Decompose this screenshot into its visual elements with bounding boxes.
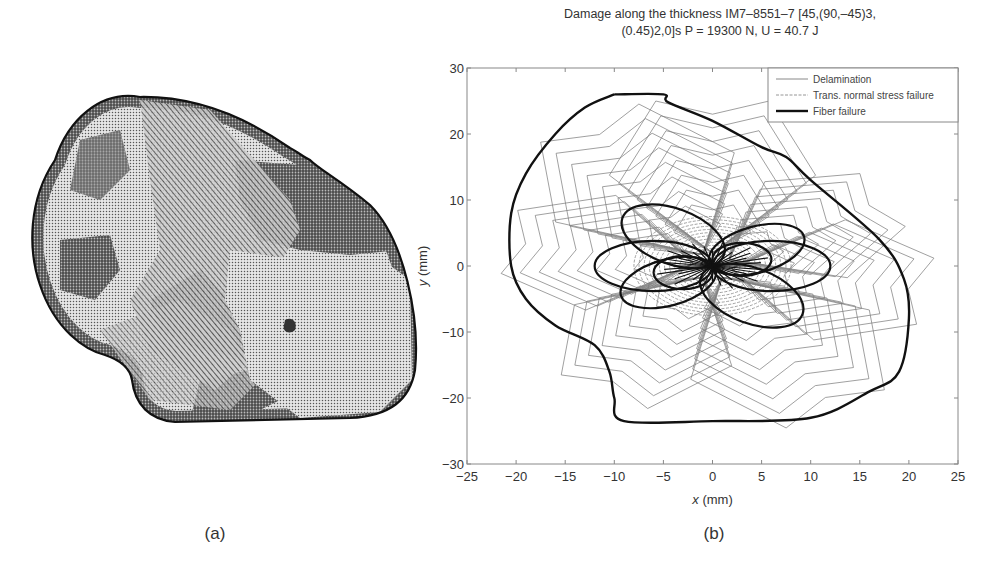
x-tick-label: 0	[709, 469, 716, 484]
delamination-contour	[587, 148, 728, 255]
x-tick-label: −20	[505, 469, 527, 484]
legend-item-label: Fiber failure	[813, 106, 866, 117]
x-axis-label: x (mm)	[691, 492, 732, 507]
x-tick-label: −10	[603, 469, 625, 484]
x-tick-label: −15	[554, 469, 576, 484]
plot-area	[501, 94, 934, 428]
x-tick-label: 10	[803, 469, 817, 484]
y-axis-label: y (mm)	[415, 246, 430, 287]
damage-plot: −25−20−15−10−50510152025−30−20−100102030…	[0, 0, 997, 571]
x-tick-label: 5	[758, 469, 765, 484]
y-tick-label: −20	[442, 391, 464, 406]
y-tick-label: 30	[450, 61, 464, 76]
x-tick-label: 25	[951, 469, 965, 484]
delamination-contour	[501, 195, 693, 310]
x-tick-label: 20	[902, 469, 916, 484]
delamination-contour	[637, 146, 788, 253]
panel-b-caption: (b)	[684, 524, 744, 544]
y-tick-label: 10	[450, 193, 464, 208]
delamination-contour	[697, 277, 838, 384]
legend-item-label: Trans. normal stress failure	[813, 90, 934, 101]
x-tick-label: −5	[656, 469, 671, 484]
legend-item-label: Delamination	[813, 74, 871, 85]
y-tick-label: −30	[442, 457, 464, 472]
y-tick-label: 20	[450, 127, 464, 142]
y-tick-label: 0	[457, 259, 464, 274]
y-tick-label: −10	[442, 325, 464, 340]
x-tick-label: 15	[853, 469, 867, 484]
